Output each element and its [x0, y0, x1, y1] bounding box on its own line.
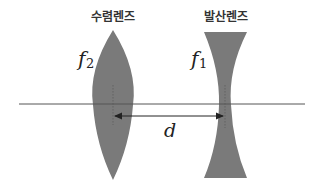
focal-subscript-f1: 1	[199, 56, 207, 71]
focal-length-f1: f 1	[189, 47, 207, 71]
converging-lens-label: 수렴렌즈	[91, 9, 135, 24]
diverging-lens-shape	[204, 32, 247, 178]
diverging-lens-label: 발산렌즈	[204, 9, 248, 24]
converging-lens-shape	[92, 30, 134, 180]
focal-subscript-f2: 2	[86, 56, 94, 71]
converging-lens	[92, 30, 134, 180]
lens-diagram: 수렴렌즈 발산렌즈 f 2 f 1 d	[0, 0, 315, 195]
focal-length-f2: f 2	[76, 47, 94, 71]
diverging-lens	[204, 32, 247, 178]
separation-label: d	[164, 119, 176, 141]
